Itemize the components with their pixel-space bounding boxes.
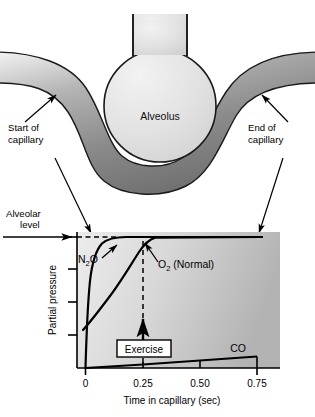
- alveolus-body: [104, 14, 216, 162]
- alveolar-level-label-line2: level: [20, 219, 40, 230]
- x-axis-title: Time in capillary (sec): [124, 395, 221, 406]
- alveolus-gas-exchange-figure: Alveolus Start of capillary End of capil…: [0, 0, 315, 417]
- start-of-capillary-arrow: [25, 95, 56, 122]
- alveolar-sac: [104, 50, 216, 162]
- duct-fill-overlay: [134, 20, 186, 55]
- exercise-label: Exercise: [125, 344, 164, 355]
- alveolar-level-label-line1: Alveolar: [6, 208, 41, 219]
- end-of-capillary-arrow: [262, 95, 288, 122]
- x-tick-label-1: 0.25: [133, 378, 153, 389]
- x-tick-label-3: 0.75: [247, 378, 267, 389]
- end-of-capillary-label-line1: End of: [248, 122, 276, 133]
- start-of-capillary-label-line1: Start of: [8, 122, 39, 133]
- end-of-capillary-label-line2: capillary: [248, 134, 283, 145]
- alveolus-diagram: Alveolus Start of capillary End of capil…: [0, 14, 315, 233]
- chart: 0 0.25 0.50 0.75 Time in capillary (sec)…: [3, 208, 280, 406]
- end-of-capillary-annotation: End of capillary: [248, 95, 288, 145]
- start-of-capillary-label-line2: capillary: [8, 134, 43, 145]
- series-co-label: CO: [230, 342, 246, 354]
- figure-root: Alveolus Start of capillary End of capil…: [0, 0, 315, 417]
- start-of-capillary-annotation: Start of capillary: [8, 95, 56, 145]
- y-axis-ticks: [68, 237, 77, 335]
- alveolar-level-annotation: Alveolar level: [3, 208, 72, 237]
- alveolus-label: Alveolus: [140, 110, 180, 122]
- x-tick-label-0: 0: [83, 378, 89, 389]
- y-axis-title: Partial pressure: [47, 265, 58, 335]
- x-tick-label-2: 0.50: [190, 378, 210, 389]
- end-connector-arrow: [259, 158, 283, 233]
- start-connector-arrow: [55, 158, 91, 233]
